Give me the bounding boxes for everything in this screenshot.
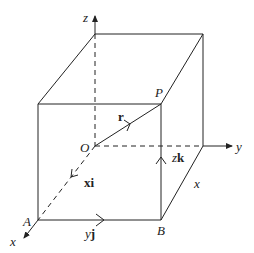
vector-r-label: r	[118, 109, 124, 124]
yj-label: yj	[83, 226, 95, 241]
point-b-label: B	[157, 223, 165, 238]
point-p-label: P	[154, 85, 163, 100]
hidden-axes	[38, 34, 203, 220]
vector-diagram: z y x O P A B r xi yj zk x	[0, 0, 254, 253]
x-axis-label: x	[9, 234, 16, 249]
box-edges	[38, 34, 203, 220]
point-a-label: A	[22, 214, 31, 229]
z-axis-label: z	[82, 10, 88, 25]
origin-label: O	[80, 140, 90, 155]
xi-label: xi	[84, 175, 95, 190]
edge-x-label: x	[193, 176, 200, 191]
vector-r	[95, 104, 161, 146]
y-axis-label: y	[234, 139, 242, 154]
zk-label: zk	[171, 150, 185, 165]
